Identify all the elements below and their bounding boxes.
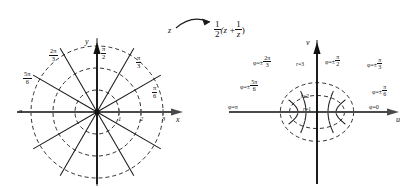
mapping-arrow-head	[202, 19, 210, 26]
polar-ray-240	[60, 112, 97, 176]
polar-ray-210	[33, 112, 97, 149]
z-plane-angle-label-2: π2	[101, 46, 106, 60]
z-plane-angle-label-1: π3	[136, 55, 141, 69]
w-plane-phi-label-5: φ=±5π6	[240, 79, 258, 92]
z-plane-angle-label-0: π6	[152, 85, 157, 99]
y-axis-label: y	[85, 38, 89, 46]
z-plane-group	[17, 38, 183, 185]
hyperbola-phi-60-down	[328, 112, 333, 133]
map-body-open: (z +	[221, 25, 236, 35]
origin-dot	[94, 109, 99, 114]
map-expression-label: 1 2 (z + 1 z )	[214, 20, 245, 39]
x-axis-label: x	[176, 116, 180, 124]
u-axis-label: u	[396, 116, 400, 124]
polar-ray-120	[60, 48, 97, 112]
mapping-arrow-group	[176, 19, 210, 29]
hyperbola-phi-120-down	[301, 112, 306, 133]
hyperbola-phi-30-up	[336, 100, 345, 112]
source-variable-label: z	[168, 27, 171, 35]
hyperbola-phi-150-down	[289, 112, 298, 124]
v-axis-label: v	[306, 39, 310, 47]
z-plane-angle-label-4: 5π6	[23, 71, 32, 85]
w-plane-phi-label-4: φ=±2π3	[253, 55, 271, 68]
joukowski-figure	[0, 0, 418, 188]
map-body-close: )	[242, 25, 245, 35]
w-plane-phi-label-2: φ=±π3	[367, 57, 382, 70]
x-tick-label-3: 3	[162, 116, 165, 123]
x-tick-label-1: 1	[118, 116, 121, 123]
v-axis-arrowhead	[313, 42, 320, 54]
w-plane-radius-label-2: r=3	[296, 62, 304, 68]
w-plane-radius-label-1: r=2	[301, 94, 309, 100]
w-plane-phi-label-1: φ=±π6	[372, 84, 387, 97]
polar-ray-330	[97, 112, 161, 149]
w-plane-phi-label-6: φ=π	[228, 104, 238, 110]
y-axis-arrowhead	[93, 42, 100, 54]
x-tick-label-2: 2	[140, 116, 143, 123]
polar-ray-150	[33, 75, 97, 112]
w-plane-radius-label-0: r=1	[303, 107, 311, 113]
hyperbola-phi-60-up	[328, 91, 333, 112]
w-plane-phi-label-0: φ=0	[369, 104, 379, 110]
z-plane-angle-label-5: π	[19, 108, 22, 115]
w-plane-phi-label-3: φ=±π2	[325, 54, 340, 67]
polar-ray-300	[97, 112, 134, 176]
z-plane-angle-label-3: 2π3	[49, 48, 58, 62]
